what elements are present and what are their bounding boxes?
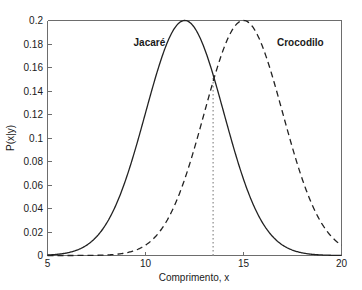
y-tick-label-9: 0.18	[24, 39, 44, 50]
x-tick-label-0: 5	[45, 258, 51, 269]
y-tick-label-7: 0.14	[24, 86, 44, 97]
y-tick-label-0: 0	[37, 250, 43, 261]
y-axis-title: P(x|y)	[5, 125, 16, 151]
chart-figure: 0 0.02 0.04 0.06 0.08 0.1 0.12 0.14 0.16…	[0, 0, 362, 290]
probability-density-chart: 0 0.02 0.04 0.06 0.08 0.1 0.12 0.14 0.16…	[0, 0, 362, 290]
y-tick-label-10: 0.2	[29, 15, 43, 26]
x-tick-label-1: 10	[140, 258, 152, 269]
y-tick-label-3: 0.06	[24, 180, 44, 191]
x-axis-title: Comprimento, x	[159, 272, 230, 283]
y-tick-label-6: 0.12	[24, 109, 44, 120]
x-tick-label-3: 20	[336, 258, 348, 269]
y-tick-label-4: 0.08	[24, 156, 44, 167]
series-label-jacare: Jacaré	[134, 37, 166, 48]
y-tick-label-5: 0.1	[29, 133, 43, 144]
y-tick-label-2: 0.04	[24, 203, 44, 214]
x-tick-label-2: 15	[238, 258, 250, 269]
series-label-crocodilo: Crocodilo	[277, 37, 324, 48]
y-tick-label-8: 0.16	[24, 62, 44, 73]
y-tick-label-1: 0.02	[24, 227, 44, 238]
